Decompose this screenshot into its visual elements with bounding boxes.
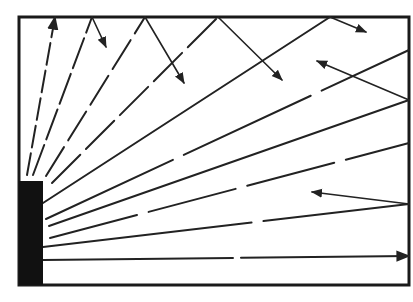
- reflection-f4: [330, 17, 366, 32]
- source-block: [19, 181, 43, 285]
- ray-r3: [46, 17, 145, 176]
- ray-fan: [27, 17, 409, 260]
- reflection-f2: [145, 17, 184, 83]
- ray-diagram: [0, 0, 413, 302]
- reflection-f5: [317, 61, 409, 100]
- diagram-canvas: [0, 0, 413, 302]
- ray-r10: [43, 256, 409, 260]
- reflection-f6: [312, 192, 409, 204]
- reflection-f3: [218, 17, 282, 80]
- reflection-f1: [92, 17, 106, 47]
- ray-r4: [52, 17, 218, 183]
- ray-r8: [50, 143, 409, 238]
